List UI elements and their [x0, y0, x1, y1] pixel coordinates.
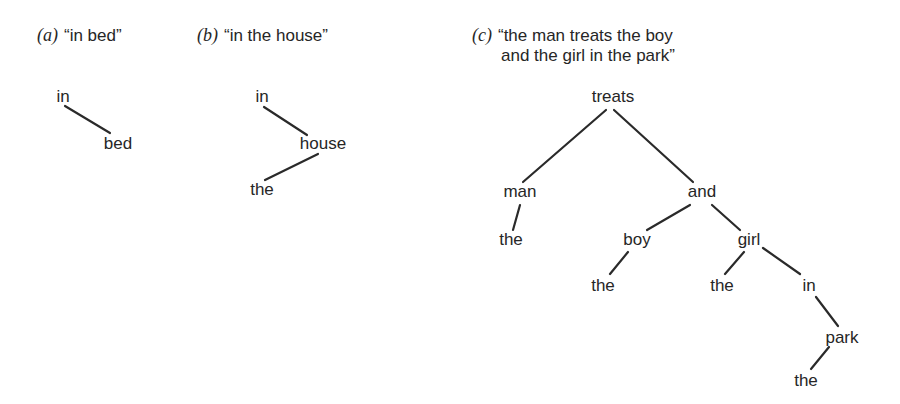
tree-c-node-in: in: [802, 276, 815, 296]
tree-edges: [0, 0, 900, 404]
tree-c-edge: [647, 205, 690, 230]
tree-b-node-the: the: [250, 180, 274, 200]
tree-b-node-in: in: [255, 87, 268, 107]
tree-c-node-the4: the: [794, 371, 818, 391]
tree-c-node-girl: girl: [738, 230, 761, 250]
tree-a-node-in: in: [56, 87, 69, 107]
tree-c-node-treats: treats: [592, 87, 635, 107]
tree-c-edge: [763, 248, 800, 274]
tree-c-edge: [523, 110, 606, 182]
tree-c-edge: [725, 252, 744, 274]
tree-c-edge: [610, 252, 628, 274]
tree-c-edge: [513, 205, 520, 230]
tree-b-node-house: house: [300, 134, 346, 154]
tree-c-node-the2: the: [591, 276, 615, 296]
tree-c-node-and: and: [688, 182, 716, 202]
tree-c-node-man: man: [503, 182, 536, 202]
tree-b-edge: [265, 154, 318, 180]
tree-c-edge: [614, 110, 693, 182]
tree-c-node-the1: the: [499, 230, 523, 250]
tree-c-node-the3: the: [710, 276, 734, 296]
tree-c-edge: [816, 297, 838, 326]
tree-b-edge: [264, 107, 307, 135]
tree-a-edge: [65, 106, 110, 133]
tree-c-edge: [811, 347, 829, 369]
tree-c-edge: [712, 205, 740, 230]
tree-a-node-bed: bed: [104, 134, 132, 154]
tree-c-node-boy: boy: [623, 230, 650, 250]
tree-c-node-park: park: [825, 328, 858, 348]
